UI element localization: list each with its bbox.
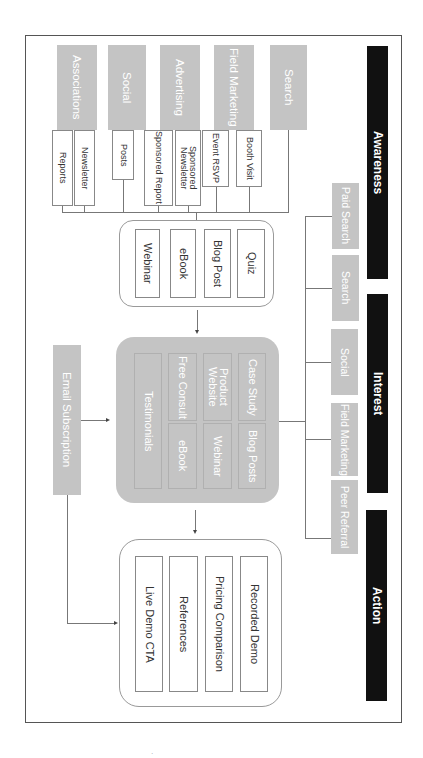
category-label: Search — [282, 69, 294, 105]
subitem-label: Event RSVP — [211, 133, 220, 183]
content-references: References — [169, 556, 198, 692]
phase-bar-awareness: Awareness — [367, 46, 388, 279]
subitem-sponsored-report: Sponsored Report — [144, 130, 173, 206]
content-label: Blog Post — [212, 240, 224, 287]
content-blog-posts: Blog Posts — [238, 423, 266, 489]
content-label: eBook — [177, 248, 189, 279]
arrow-line — [195, 510, 196, 530]
channel-paid-search: Paid Search — [332, 183, 359, 249]
email-subscription: Email Subscription — [53, 345, 81, 495]
content-webinar: Webinar — [203, 423, 232, 489]
connector-line — [305, 362, 331, 363]
connector-line — [196, 212, 197, 220]
subitem-label: Sponsored Newsletter — [179, 131, 198, 205]
phase-bar-interest: Interest — [367, 294, 388, 493]
arrow-line — [197, 310, 198, 330]
connector-line — [305, 216, 332, 217]
connector-line — [123, 180, 124, 212]
content-label: Product Website — [206, 354, 229, 420]
channel-label: Social — [339, 348, 350, 377]
channel-field-marketing: Field Marketing — [331, 403, 358, 476]
category-label: Associations — [71, 55, 83, 120]
email-subscription-label: Email Subscription — [61, 372, 73, 467]
connector-line — [216, 187, 217, 212]
phase-bar-action: Action — [366, 510, 387, 701]
channel-label: Peer Referral — [339, 486, 350, 548]
connector-line — [305, 439, 331, 440]
content-blog-post: Blog Post — [204, 229, 231, 298]
connector-line — [305, 538, 331, 539]
connector-bus — [62, 212, 289, 213]
connector-line — [288, 130, 289, 212]
arrow-down-icon — [193, 530, 197, 534]
content-recorded-demo: Recorded Demo — [240, 556, 268, 692]
content-webinar: Webinar — [135, 229, 160, 298]
arrow-line — [67, 623, 115, 624]
content-quiz: Quiz — [237, 229, 265, 298]
content-ebook: eBook — [170, 229, 196, 298]
arrow-line — [81, 420, 108, 421]
category-social: Social — [108, 45, 146, 130]
connector-line — [279, 421, 305, 422]
subitem-label: Booth Visit — [244, 137, 253, 180]
category-label: Field Marketing — [228, 48, 240, 127]
subitem-booth-visit: Booth Visit — [236, 130, 262, 187]
content-label: Case Study — [246, 359, 258, 416]
content-label: Free Consult — [177, 356, 189, 419]
content-label: Testimonials — [142, 391, 154, 452]
content-label: References — [178, 596, 190, 652]
channel-social: Social — [331, 329, 358, 395]
subitem-sponsored-newsletter: Sponsored Newsletter — [175, 130, 201, 206]
channel-label: Search — [340, 271, 351, 304]
content-live-demo-cta: Live Demo CTA — [135, 556, 163, 692]
subitem-reports: Reports — [52, 130, 73, 206]
arrow-right-icon — [114, 621, 118, 625]
channel-bus — [305, 216, 306, 538]
category-search: Search — [270, 45, 307, 130]
arrow-down-icon — [195, 330, 199, 334]
content-pricing-comparison: Pricing Comparison — [205, 556, 233, 692]
content-product-website: Product Website — [203, 353, 232, 421]
content-label: Webinar — [212, 436, 224, 477]
subitem-posts: Posts — [112, 130, 134, 180]
channel-label: Field Marketing — [339, 404, 350, 476]
subitem-label: Posts — [118, 144, 127, 167]
content-testimonials: Testimonials — [134, 353, 162, 489]
subitem-event-rsvp: Event RSVP — [202, 130, 229, 187]
channel-search: Search — [332, 255, 359, 321]
arrow-right-icon — [106, 418, 110, 422]
content-free-consult: Free Consult — [168, 353, 197, 421]
footer-mark: · — [151, 750, 153, 757]
content-case-study: Case Study — [238, 353, 266, 421]
content-label: Quiz — [245, 252, 257, 275]
channel-label: Paid Search — [340, 187, 351, 244]
content-label: Recorded Demo — [248, 584, 260, 664]
channel-peer-referral: Peer Referral — [331, 480, 358, 554]
category-label: Advertising — [174, 59, 186, 116]
phase-label-action: Action — [370, 587, 383, 624]
phase-label-awareness: Awareness — [371, 131, 384, 194]
category-label: Social — [121, 72, 133, 103]
category-advertising: Advertising — [160, 45, 200, 130]
arrow-line — [67, 495, 68, 623]
content-ebook: eBook — [168, 423, 197, 489]
subitem-label: Sponsored Report — [154, 131, 163, 204]
subitem-newsletter: Newsletter — [74, 130, 95, 206]
content-label: Blog Posts — [246, 430, 258, 483]
category-associations: Associations — [57, 45, 97, 130]
connector-line — [249, 187, 250, 212]
content-label: eBook — [177, 440, 189, 471]
content-label: Live Demo CTA — [143, 586, 155, 663]
content-label: Webinar — [142, 243, 154, 284]
subitem-label: Reports — [58, 152, 67, 184]
subitem-label: Newsletter — [80, 147, 89, 190]
category-field-marketing: Field Marketing — [214, 45, 254, 130]
connector-line — [305, 288, 332, 289]
content-label: Pricing Comparison — [213, 576, 225, 672]
phase-label-interest: Interest — [371, 372, 384, 415]
